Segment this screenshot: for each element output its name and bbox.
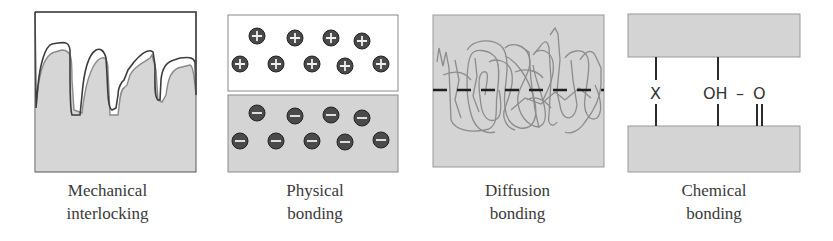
- minus-charge-icon: [354, 110, 370, 126]
- minus-charge-icon: [323, 107, 339, 123]
- plus-charge-icon: [268, 56, 284, 72]
- caption-line-2: bonding: [415, 202, 620, 225]
- caption-line-1: Mechanical: [0, 179, 215, 202]
- bond-label-dash: –: [736, 84, 744, 103]
- top-substrate: [628, 14, 800, 57]
- plus-charge-icon: [337, 58, 353, 74]
- caption-line-2: bonding: [215, 202, 415, 225]
- panel-physical-bonding: Physical bonding: [215, 0, 415, 241]
- caption-line-1: Diffusion: [415, 179, 620, 202]
- plus-charge-icon: [249, 28, 265, 44]
- minus-charge-icon: [287, 108, 303, 124]
- plus-charge-icon: [287, 30, 303, 46]
- plus-charge-icon: [323, 30, 339, 46]
- minus-charge-icon: [232, 133, 248, 149]
- bond-label-oh: OH: [703, 84, 728, 103]
- plus-charge-icon: [354, 33, 370, 49]
- minus-charge-icon: [249, 105, 265, 121]
- plus-charge-icon: [304, 56, 320, 72]
- panel-diffusion-bonding: Diffusion bonding: [415, 0, 620, 241]
- caption-chemical-bonding: Chemical bonding: [620, 179, 808, 225]
- physical-bonding-diagram: [215, 0, 415, 180]
- bottom-substrate: [628, 126, 800, 172]
- substrate-shape: [36, 50, 196, 172]
- diffusion-bonding-diagram: [415, 0, 620, 180]
- top-layer: [228, 15, 398, 91]
- mechanical-interlocking-diagram: [0, 0, 215, 180]
- panel-mechanical-interlocking: Mechanical interlocking: [0, 0, 215, 241]
- bond-label-o: O: [753, 84, 766, 103]
- caption-line-2: interlocking: [0, 202, 215, 225]
- caption-line-1: Physical: [215, 179, 415, 202]
- chemical-bonding-diagram: X OH – O: [620, 0, 833, 180]
- caption-diffusion-bonding: Diffusion bonding: [415, 179, 620, 225]
- bond-label-x: X: [650, 84, 661, 103]
- minus-charge-icon: [373, 132, 389, 148]
- panel-chemical-bonding: X OH – O Chemical bonding: [620, 0, 833, 241]
- minus-charge-icon: [337, 134, 353, 150]
- plus-charge-icon: [373, 56, 389, 72]
- caption-physical-bonding: Physical bonding: [215, 179, 415, 225]
- caption-line-2: bonding: [620, 202, 808, 225]
- plus-charge-icon: [232, 56, 248, 72]
- caption-mechanical-interlocking: Mechanical interlocking: [0, 179, 215, 225]
- minus-charge-icon: [268, 133, 284, 149]
- minus-charge-icon: [304, 133, 320, 149]
- caption-line-1: Chemical: [620, 179, 808, 202]
